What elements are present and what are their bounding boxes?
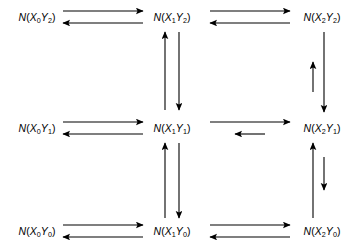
node-label-x0y1: N(X0Y1) xyxy=(18,123,55,134)
node-label-x0y2: N(X0Y2) xyxy=(18,12,55,23)
node-label-x1y0: N(X1Y0) xyxy=(153,226,190,237)
node-label-x1y2: N(X1Y2) xyxy=(153,12,190,23)
node-label-x0y0: N(X0Y0) xyxy=(18,226,55,237)
node-label-x2y0: N(X2Y0) xyxy=(303,226,340,237)
diagram-canvas: N(X0Y2) N(X1Y2) N(X2Y2) N(X0Y1) N(X1Y1) … xyxy=(0,0,355,246)
node-label-x2y2: N(X2Y2) xyxy=(303,12,340,23)
node-label-x2y1: N(X2Y1) xyxy=(303,123,340,134)
node-label-x1y1: N(X1Y1) xyxy=(153,123,190,134)
